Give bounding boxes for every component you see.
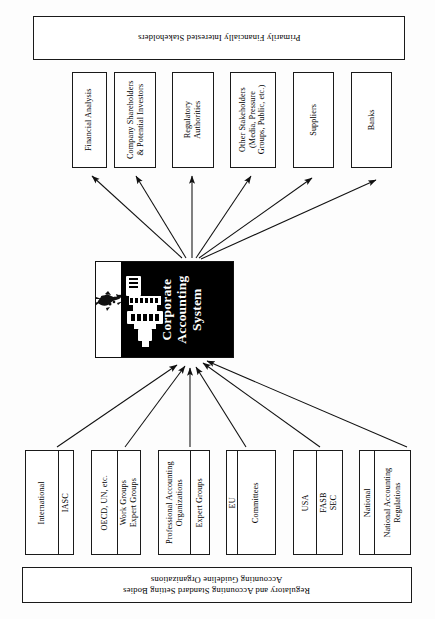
regulator-label-1-right: Work Groups Expert Groups <box>119 478 138 527</box>
regulator-cell-left: Professional Accounting Organizations <box>159 451 190 554</box>
regulator-cell-right: Committees <box>237 451 275 554</box>
regulator-cell-left: EU <box>227 451 237 554</box>
center-title: Corporate Accounting System <box>134 262 231 357</box>
stakeholder-label-5: Banks <box>367 110 377 131</box>
stakeholder-cell: Financial Analysis <box>73 73 106 167</box>
regulator-cell-left: OECD, UN, etc. <box>92 451 117 554</box>
regulator-cell-left: National <box>360 451 374 554</box>
bottom-banner: Regulatory and Accounting Standard Setti… <box>22 567 412 603</box>
regulator-box-professional-accounting[interactable]: Professional Accounting Organizations Ex… <box>158 450 210 555</box>
regulator-cell-right: IASC <box>58 451 73 554</box>
regulator-cell-right: FASB SEC <box>316 451 342 554</box>
stakeholder-cell: Company Shareholders & Potential Investo… <box>115 73 155 167</box>
stakeholder-label-3: Other Stakeholders (Media, Pressure Grou… <box>239 85 268 155</box>
arrow-from-international <box>57 365 177 447</box>
regulator-cell-right: Expert Groups <box>190 451 209 554</box>
stakeholder-box-regulatory-authorities[interactable]: Regulatory Authorities <box>172 72 214 168</box>
stakeholder-label-0: Financial Analysis <box>85 89 95 152</box>
arrows-from-regulators <box>57 361 407 447</box>
arrow-to-other-stakeholders <box>196 176 251 258</box>
regulator-box-usa[interactable]: USA FASB SEC <box>293 450 343 555</box>
stakeholder-box-company-shareholders[interactable]: Company Shareholders & Potential Investo… <box>114 72 156 168</box>
arrows-to-stakeholders <box>92 176 376 259</box>
stakeholder-box-suppliers[interactable]: Suppliers <box>293 72 334 168</box>
stakeholder-cell: Suppliers <box>294 73 333 167</box>
arrow-from-oecd-un <box>125 366 185 447</box>
stakeholder-label-1: Company Shareholders & Potential Investo… <box>125 81 144 160</box>
scribble-icon <box>96 284 121 318</box>
regulator-label-3-left: EU <box>227 497 237 508</box>
regulator-box-national[interactable]: National National Accounting Regulations <box>359 450 411 555</box>
regulator-cell-left: International <box>26 451 58 554</box>
regulator-label-0-left: International <box>37 481 47 524</box>
top-banner-label: Primarily Financially Interested Stakeho… <box>138 32 301 43</box>
arrow-to-financial-analysis <box>92 176 182 258</box>
top-banner: Primarily Financially Interested Stakeho… <box>33 16 405 60</box>
stakeholder-label-4: Suppliers <box>309 104 319 136</box>
regulator-box-international[interactable]: International IASC <box>25 450 74 555</box>
arrow-from-national <box>207 361 407 447</box>
regulator-box-oecd-un[interactable]: OECD, UN, etc. Work Groups Expert Groups <box>91 450 141 555</box>
diagram-canvas: Primarily Financially Interested Stakeho… <box>0 0 435 619</box>
regulator-label-5-right: National Accounting Regulations <box>383 468 402 538</box>
regulator-label-3-right: Committees <box>252 482 262 523</box>
regulator-label-4-left: USA <box>300 494 310 511</box>
regulator-label-5-left: National <box>362 488 372 517</box>
arrow-from-usa <box>203 363 320 447</box>
arrow-to-banks <box>201 180 376 259</box>
regulator-label-2-left: Professional Accounting Organizations <box>165 461 184 544</box>
stakeholder-cell: Regulatory Authorities <box>173 73 213 167</box>
center-white-panel <box>96 262 121 357</box>
arrow-to-company-shareholders <box>136 176 186 258</box>
regulator-label-2-right: Expert Groups <box>195 478 205 527</box>
corporate-accounting-system-block[interactable]: Corporate Accounting System <box>95 261 234 358</box>
regulator-cell-left: USA <box>294 451 316 554</box>
stakeholder-box-banks[interactable]: Banks <box>351 72 392 168</box>
center-black-panel: Corporate Accounting System <box>121 262 233 357</box>
regulator-cell-right: Work Groups Expert Groups <box>117 451 140 554</box>
regulator-label-1-left: OECD, UN, etc. <box>100 475 110 530</box>
regulator-label-4-right: FASB SEC <box>320 492 339 512</box>
stakeholder-box-other-stakeholders[interactable]: Other Stakeholders (Media, Pressure Grou… <box>230 72 276 168</box>
regulator-label-0-right: IASC <box>61 493 71 512</box>
stakeholder-box-financial-analysis[interactable]: Financial Analysis <box>72 72 107 168</box>
center-title-label: Corporate Accounting System <box>160 275 205 343</box>
stakeholder-cell: Other Stakeholders (Media, Pressure Grou… <box>231 73 275 167</box>
arrow-from-eu <box>196 367 246 447</box>
stakeholder-label-2: Regulatory Authorities <box>183 101 202 139</box>
regulator-box-eu[interactable]: EU Committees <box>226 450 276 555</box>
regulator-cell-right: National Accounting Regulations <box>374 451 410 554</box>
stakeholder-cell: Banks <box>352 73 391 167</box>
bottom-banner-label: Regulatory and Accounting Standard Setti… <box>123 574 310 596</box>
arrow-to-suppliers <box>199 178 312 258</box>
